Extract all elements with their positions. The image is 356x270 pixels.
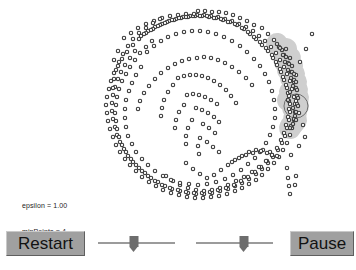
data-point — [252, 23, 255, 26]
data-point — [304, 47, 307, 50]
data-point — [120, 79, 123, 82]
data-point — [281, 148, 284, 151]
data-point — [145, 50, 148, 53]
data-point — [180, 59, 183, 62]
data-point — [219, 17, 222, 20]
data-point — [200, 108, 203, 111]
data-point — [210, 188, 213, 191]
data-point — [273, 116, 276, 119]
data-point — [144, 26, 147, 29]
data-point — [153, 179, 156, 182]
data-point — [274, 60, 277, 63]
data-point — [205, 182, 208, 185]
data-point — [246, 30, 249, 33]
data-point — [184, 161, 187, 164]
data-point — [209, 56, 212, 59]
restart-button[interactable]: Restart — [6, 231, 85, 256]
data-point — [146, 163, 149, 166]
pause-button[interactable]: Pause — [290, 231, 354, 256]
epsilon-slider[interactable] — [98, 231, 175, 256]
data-point — [137, 31, 140, 34]
cluster-point — [275, 42, 278, 45]
cluster-point — [283, 60, 286, 63]
data-point — [131, 43, 134, 46]
data-point — [192, 12, 195, 15]
data-point — [174, 32, 177, 35]
data-point — [233, 189, 236, 192]
data-point — [127, 89, 130, 92]
data-point — [270, 53, 273, 56]
minpoints-slider-track[interactable] — [196, 242, 273, 244]
data-point — [150, 39, 153, 42]
data-point — [182, 74, 185, 77]
data-point — [173, 126, 176, 129]
data-point — [113, 111, 116, 114]
data-point — [206, 111, 209, 114]
cluster-point — [286, 68, 289, 71]
data-point — [212, 16, 215, 19]
data-point — [115, 95, 118, 98]
data-point — [168, 14, 171, 17]
data-point — [205, 14, 208, 17]
data-point — [278, 58, 281, 61]
data-point — [120, 143, 123, 146]
cluster-point — [284, 47, 287, 50]
epsilon-slider-thumb[interactable] — [130, 236, 139, 247]
data-point — [209, 195, 212, 198]
data-point — [161, 188, 164, 191]
data-point — [176, 13, 179, 16]
cluster-point — [296, 96, 299, 99]
data-point — [223, 61, 226, 64]
data-point — [129, 157, 132, 160]
data-point — [130, 81, 133, 84]
data-point — [166, 35, 169, 38]
cluster-point — [290, 64, 293, 67]
data-point — [239, 168, 242, 171]
data-point — [264, 46, 267, 49]
data-point — [285, 72, 288, 75]
data-point — [288, 133, 291, 136]
data-point — [107, 87, 110, 90]
data-point — [242, 175, 245, 178]
data-point — [116, 49, 119, 52]
data-point — [140, 157, 143, 160]
data-point — [151, 21, 154, 24]
data-point — [205, 176, 208, 179]
data-point — [234, 101, 237, 104]
data-point — [237, 156, 240, 159]
data-point — [230, 39, 233, 42]
data-point — [123, 107, 126, 110]
data-point — [239, 179, 242, 182]
data-point — [142, 91, 145, 94]
data-point — [182, 103, 185, 106]
data-point — [287, 184, 290, 187]
data-point — [162, 98, 165, 101]
data-point — [111, 86, 114, 89]
data-point — [187, 57, 190, 60]
data-point — [198, 172, 201, 175]
data-point — [269, 45, 272, 48]
data-point — [212, 115, 215, 118]
data-point — [194, 73, 197, 76]
data-point — [244, 153, 247, 156]
data-point — [159, 71, 162, 74]
data-point — [178, 181, 181, 184]
data-point — [129, 31, 132, 34]
data-point — [186, 186, 189, 189]
data-point — [246, 162, 249, 165]
data-point — [287, 107, 290, 110]
data-point — [230, 65, 233, 68]
data-point — [147, 180, 150, 183]
minpoints-slider-thumb[interactable] — [239, 236, 248, 247]
data-point — [134, 150, 137, 153]
data-point — [144, 22, 147, 25]
data-point — [252, 35, 255, 38]
data-point — [114, 103, 117, 106]
data-point — [207, 126, 210, 129]
data-point — [116, 64, 119, 67]
data-point — [158, 17, 161, 20]
minpoints-slider[interactable] — [196, 231, 273, 256]
data-point — [124, 98, 127, 101]
data-point — [198, 29, 201, 32]
data-point — [119, 70, 122, 73]
